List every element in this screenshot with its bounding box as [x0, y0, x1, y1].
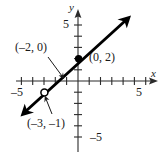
point-marker-filled [75, 55, 82, 62]
leader-line-point-a [48, 57, 64, 79]
x-axis [16, 78, 158, 85]
y-tick-label-5: 5 [63, 18, 69, 30]
point-label-minus3-minus1: (–3, –1) [27, 117, 65, 129]
x-tick-label-5: 5 [136, 86, 142, 98]
leader-line-point-c [44, 96, 52, 114]
coordinate-plane-figure: y x 5 –5 –5 5 (–2, 0) (0, 2) (–3, –1) [0, 0, 166, 160]
y-tick-label-minus5: –5 [90, 131, 102, 143]
y-axis-label: y [69, 2, 74, 13]
line-graph [21, 16, 132, 117]
x-axis-label: x [151, 68, 156, 79]
point-label-minus2-0: (–2, 0) [15, 41, 47, 53]
graph-canvas [0, 0, 166, 160]
point-label-0-2: (0, 2) [89, 51, 115, 63]
point-marker-open [41, 89, 48, 96]
x-tick-label-minus5: –5 [11, 86, 23, 98]
